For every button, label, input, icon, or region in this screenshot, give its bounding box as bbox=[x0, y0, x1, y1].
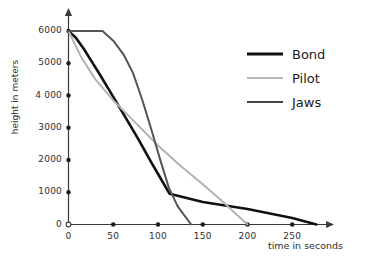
x-axis-tick-label: 50 bbox=[98, 231, 128, 241]
y-axis-tick-label: 2000 bbox=[20, 154, 62, 164]
chart-legend: Bond Pilot Jaws bbox=[247, 42, 362, 114]
legend-label-jaws: Jaws bbox=[283, 95, 321, 110]
legend-label-bond: Bond bbox=[283, 47, 325, 62]
legend-swatch-jaws bbox=[247, 97, 283, 107]
legend-item-jaws[interactable]: Jaws bbox=[247, 90, 362, 114]
y-axis-tick-label: 0 bbox=[20, 219, 62, 229]
x-axis-tick-label: 0 bbox=[54, 231, 84, 241]
y-axis-title: height in meters bbox=[10, 49, 20, 145]
x-axis-tick-label: 250 bbox=[277, 231, 307, 241]
legend-label-pilot: Pilot bbox=[283, 71, 320, 86]
y-axis-tick-label: 3000 bbox=[20, 122, 62, 132]
y-axis-tick-label: 6000 bbox=[20, 25, 62, 35]
x-axis-tick-label: 200 bbox=[233, 231, 263, 241]
legend-item-pilot[interactable]: Pilot bbox=[247, 66, 362, 90]
legend-swatch-pilot bbox=[247, 73, 283, 83]
x-axis-tick-label: 150 bbox=[188, 231, 218, 241]
legend-item-bond[interactable]: Bond bbox=[247, 42, 362, 66]
x-axis-tick-label: 100 bbox=[143, 231, 173, 241]
y-axis-tick-label: 5000 bbox=[20, 57, 62, 67]
x-axis-title: time in seconds bbox=[268, 240, 343, 251]
chart-container: 01000200030004 00050006000 0501001502002… bbox=[0, 0, 367, 262]
y-axis-tick-label: 1000 bbox=[20, 186, 62, 196]
legend-swatch-bond bbox=[247, 49, 283, 59]
y-axis-tick-label: 4 000 bbox=[20, 90, 62, 100]
